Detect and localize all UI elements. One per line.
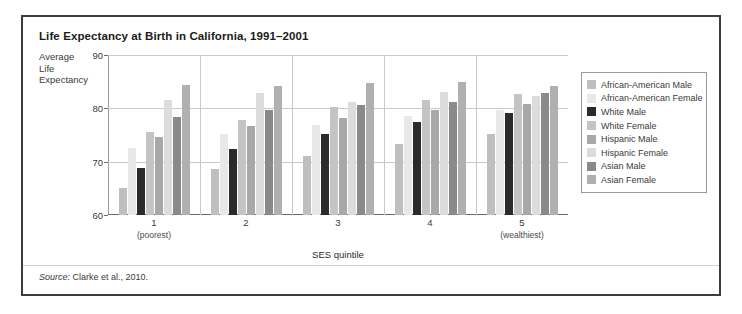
legend-item: Asian Male <box>587 160 701 174</box>
bar <box>395 144 403 215</box>
bar <box>321 134 329 215</box>
y-axis-tick-label: 60 <box>92 210 103 221</box>
bar <box>238 120 246 215</box>
legend-swatch <box>587 121 596 130</box>
bar <box>128 148 136 215</box>
y-axis-title-line-3: Expectancy <box>39 74 105 86</box>
bar <box>211 169 219 215</box>
bar-group <box>200 55 292 215</box>
bar <box>440 92 448 215</box>
x-axis-tick-value: 1 <box>108 217 200 229</box>
legend-label: African-American Female <box>601 93 703 103</box>
legend-label: Hispanic Male <box>601 134 658 144</box>
bar-groups <box>108 55 568 215</box>
source-note: Source: Clarke et al., 2010. <box>39 272 148 282</box>
bar <box>274 86 282 215</box>
legend-item: African-American Female <box>587 92 701 106</box>
bar-group <box>476 55 568 215</box>
bar <box>348 102 356 215</box>
legend-swatch <box>587 148 596 157</box>
bar <box>247 126 255 215</box>
bar <box>413 122 421 215</box>
bar <box>182 85 190 215</box>
x-axis-tick-value: 5 <box>476 217 568 229</box>
bar <box>312 125 320 215</box>
y-axis-tick-label: 70 <box>92 156 103 167</box>
bar <box>404 116 412 215</box>
x-axis-tick-label: 2 <box>200 217 292 241</box>
bar <box>422 100 430 215</box>
legend-swatch <box>587 162 596 171</box>
legend-label: White Male <box>601 107 646 117</box>
bar <box>357 105 365 215</box>
chart-legend: African-American MaleAfrican-American Fe… <box>581 72 707 193</box>
plot-area: 60708090 <box>108 55 568 215</box>
bar <box>256 93 264 215</box>
bar <box>458 82 466 215</box>
legend-swatch <box>587 135 596 144</box>
legend-swatch <box>587 80 596 89</box>
legend-item: African-American Male <box>587 78 701 92</box>
legend-item: Hispanic Female <box>587 146 701 160</box>
bar <box>366 83 374 215</box>
legend-item: White Female <box>587 119 701 133</box>
y-axis-tick-mark <box>104 215 108 216</box>
source-divider <box>23 265 719 266</box>
legend-swatch <box>587 94 596 103</box>
legend-label: Asian Male <box>601 161 646 171</box>
source-text: Clarke et al., 2010. <box>70 272 148 282</box>
bar <box>164 100 172 215</box>
source-prefix: Source: <box>39 272 70 282</box>
x-axis-tick-label: 3 <box>292 217 384 241</box>
y-axis-tick-label: 90 <box>92 50 103 61</box>
bar <box>146 132 154 215</box>
legend-item: Hispanic Male <box>587 132 701 146</box>
bar <box>449 102 457 215</box>
bar-group <box>384 55 476 215</box>
x-axis-tick-value: 4 <box>384 217 476 229</box>
y-axis-tick-label: 80 <box>92 103 103 114</box>
bar <box>487 134 495 215</box>
bar <box>119 188 127 215</box>
bar <box>523 104 531 215</box>
x-axis-tick-sublabel: (wealthiest) <box>476 229 568 241</box>
legend-label: Asian Female <box>601 175 656 185</box>
chart-panel: Life Expectancy at Birth in California, … <box>21 15 721 296</box>
x-axis-tick-value: 2 <box>200 217 292 229</box>
bar <box>514 94 522 215</box>
bar <box>330 107 338 215</box>
bar <box>496 110 504 215</box>
x-axis-tick-sublabel: (poorest) <box>108 229 200 241</box>
legend-swatch <box>587 107 596 116</box>
bar <box>173 117 181 215</box>
bar <box>220 134 228 215</box>
bar-group <box>292 55 384 215</box>
bar <box>541 93 549 215</box>
legend-swatch <box>587 175 596 184</box>
x-axis-tick-value: 3 <box>292 217 384 229</box>
bar <box>155 137 163 215</box>
x-axis-tick-label: 4 <box>384 217 476 241</box>
bar <box>505 113 513 215</box>
y-axis-title-line-2: Life <box>39 63 105 75</box>
chart-title: Life Expectancy at Birth in California, … <box>39 30 309 42</box>
bar <box>137 168 145 215</box>
x-axis-title: SES quintile <box>108 249 568 260</box>
bar-group <box>108 55 200 215</box>
x-axis-tick-label: 1(poorest) <box>108 217 200 241</box>
x-axis-tick-label: 5(wealthiest) <box>476 217 568 241</box>
bar <box>550 86 558 215</box>
legend-label: African-American Male <box>601 80 692 90</box>
legend-label: White Female <box>601 121 657 131</box>
legend-item: Asian Female <box>587 173 701 187</box>
bar <box>532 96 540 215</box>
x-axis-tick-labels: 1(poorest)2345(wealthiest) <box>108 217 568 241</box>
bar <box>431 110 439 215</box>
bar <box>303 156 311 215</box>
bar <box>339 118 347 215</box>
bar <box>229 149 237 215</box>
bar <box>265 110 273 215</box>
legend-label: Hispanic Female <box>601 148 668 158</box>
legend-item: White Male <box>587 105 701 119</box>
